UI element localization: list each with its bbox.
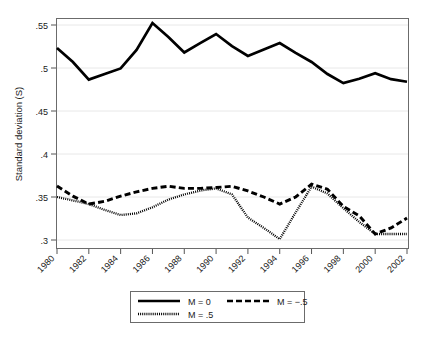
y-tick-label: .45 — [35, 107, 48, 117]
legend-label-m-05: M = .5 — [188, 310, 213, 320]
y-tick-label: .35 — [35, 193, 48, 203]
y-tick-label: .5 — [40, 64, 48, 74]
y-axis-title: Standard deviation (S) — [13, 87, 24, 182]
legend-label-m-minus-05: M = −.5 — [277, 297, 308, 307]
y-tick-label: .4 — [40, 150, 48, 160]
chart-figure: .55 .5 .45 .4 .35 .3 Standard deviation … — [0, 0, 423, 338]
y-tick-label: .3 — [40, 236, 48, 246]
y-tick-label: .55 — [35, 21, 48, 31]
figure-background — [0, 0, 423, 338]
legend-label-m0: M = 0 — [188, 297, 211, 307]
